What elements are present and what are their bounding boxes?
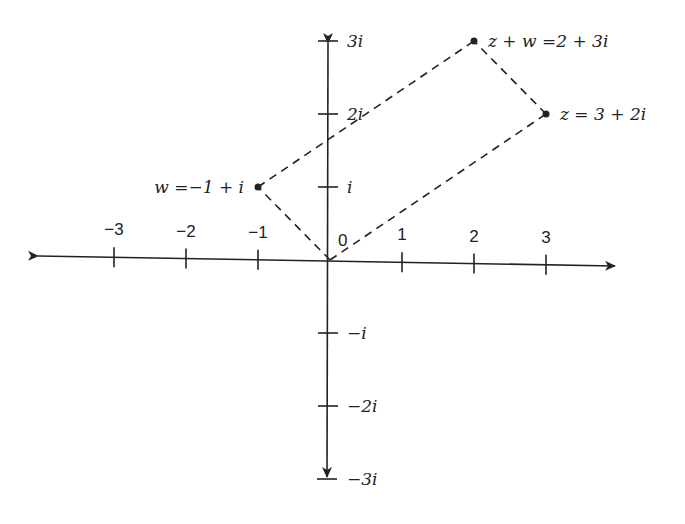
imaginary-tick-label: 2i bbox=[346, 104, 363, 124]
real-tick-label: −3 bbox=[104, 220, 123, 239]
imaginary-axis bbox=[327, 43, 328, 477]
imaginary-tick-label: −2i bbox=[347, 396, 378, 416]
imaginary-tick-label: i bbox=[347, 177, 352, 197]
imaginary-tick-label: −3i bbox=[347, 469, 378, 489]
real-tick-label: 1 bbox=[397, 225, 406, 244]
real-tick-label: 2 bbox=[469, 227, 478, 246]
dashed-vector bbox=[474, 41, 546, 114]
point-z bbox=[543, 111, 550, 118]
point-label-w: w =−1 + i bbox=[154, 177, 244, 197]
point-label-zw: z + w =2 + 3i bbox=[487, 31, 608, 51]
point-w bbox=[255, 184, 262, 191]
dashed-vector bbox=[330, 114, 546, 260]
complex-plane-diagram: −3−2−11233i2ii−i−2i−3i0w =−1 + iz = 3 + … bbox=[0, 0, 685, 524]
dashed-vector bbox=[258, 187, 330, 260]
origin-label: 0 bbox=[338, 231, 347, 250]
imaginary-tick-label: 3i bbox=[347, 31, 363, 51]
dashed-vector bbox=[258, 41, 474, 187]
point-label-z: z = 3 + 2i bbox=[559, 104, 646, 124]
real-tick-label: −1 bbox=[248, 223, 267, 242]
real-tick-label: −2 bbox=[176, 222, 195, 241]
point-zw bbox=[471, 38, 478, 45]
real-tick-label: 3 bbox=[541, 228, 550, 247]
imaginary-tick-label: −i bbox=[347, 323, 367, 343]
